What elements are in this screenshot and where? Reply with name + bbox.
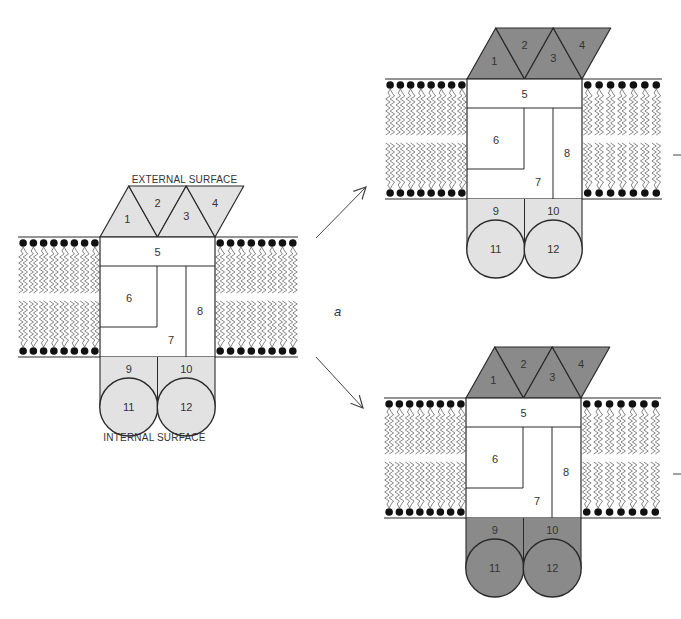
lipid-head-icon	[279, 239, 287, 247]
subunit-label: 9	[492, 524, 498, 536]
lipid-head-icon	[417, 81, 425, 89]
lipid-head-icon	[279, 347, 287, 355]
lipid-head-icon	[640, 400, 648, 408]
subunit-label: 10	[547, 205, 559, 217]
lipid-head-icon	[448, 189, 456, 197]
lipid-head-icon	[19, 239, 27, 247]
lipid-head-icon	[248, 347, 256, 355]
lipid-head-icon	[248, 239, 256, 247]
subunit-label: 7	[535, 176, 541, 188]
lipid-head-icon	[427, 189, 435, 197]
lipid-head-icon	[91, 239, 99, 247]
lipid-head-icon	[416, 508, 424, 516]
subunit-label: 4	[578, 358, 584, 370]
panel-label: a	[334, 304, 341, 319]
internal-surface-label: INTERNAL SURFACE	[103, 432, 205, 443]
lipid-head-icon	[71, 347, 79, 355]
lipid-head-icon	[60, 347, 68, 355]
lipid-head-icon	[457, 508, 465, 516]
lipid-head-icon	[426, 400, 434, 408]
lipid-head-icon	[385, 400, 393, 408]
lipid-head-icon	[438, 81, 446, 89]
lipid-head-icon	[237, 239, 245, 247]
transition-arrow-icon	[316, 187, 366, 238]
subunit-label: 7	[168, 334, 174, 346]
transition-arrow-icon	[316, 357, 363, 408]
lipid-head-icon	[407, 81, 415, 89]
lipid-head-icon	[629, 508, 637, 516]
subunit-label: 6	[126, 292, 132, 304]
subunit-label: 5	[521, 88, 527, 100]
protein-diagram-variant-top: 123456879101112	[385, 28, 662, 278]
lipid-head-icon	[652, 81, 660, 89]
lipid-head-icon	[584, 189, 592, 197]
subunit-label: 1	[490, 374, 496, 386]
lipid-head-icon	[618, 189, 626, 197]
subunit-label: 6	[492, 453, 498, 465]
lipid-head-icon	[447, 508, 455, 516]
subunit-label: 11	[490, 243, 501, 255]
subunit-label: 2	[521, 39, 527, 51]
lipid-head-icon	[640, 508, 648, 516]
lipid-head-icon	[651, 400, 659, 408]
lipid-head-icon	[397, 189, 405, 197]
lipid-head-icon	[216, 239, 224, 247]
lipid-head-icon	[30, 347, 38, 355]
protein-diagram-variant-bottom: 123456879101112	[384, 347, 661, 597]
protein-diagram-original: 123456879101112EXTERNAL SURFACEINTERNAL …	[18, 174, 298, 443]
lipid-head-icon	[583, 508, 591, 516]
subunit-label: 8	[563, 466, 569, 478]
lipid-head-icon	[40, 239, 48, 247]
lipid-head-icon	[629, 400, 637, 408]
subunit-label: 8	[197, 305, 203, 317]
lipid-head-icon	[594, 400, 602, 408]
lipid-head-icon	[407, 189, 415, 197]
lipid-head-icon	[396, 400, 404, 408]
lipid-head-icon	[426, 508, 434, 516]
lipid-head-icon	[385, 508, 393, 516]
lipid-head-icon	[651, 508, 659, 516]
lipid-head-icon	[595, 81, 603, 89]
lipid-head-icon	[437, 508, 445, 516]
lipid-head-icon	[594, 508, 602, 516]
lipid-head-icon	[81, 347, 89, 355]
membrane-protein-figure: 123456879101112EXTERNAL SURFACEINTERNAL …	[0, 0, 681, 619]
subunit-label: 3	[183, 210, 189, 222]
lipid-head-icon	[268, 347, 276, 355]
lipid-head-icon	[416, 400, 424, 408]
subunit-label: 3	[550, 52, 556, 64]
lipid-head-icon	[448, 81, 456, 89]
lipid-head-icon	[216, 347, 224, 355]
lipid-head-icon	[427, 81, 435, 89]
lipid-head-icon	[396, 508, 404, 516]
subunit-label: 5	[520, 407, 526, 419]
external-surface-label: EXTERNAL SURFACE	[132, 174, 238, 185]
subunit-label: 11	[489, 562, 500, 574]
subunit-label: 9	[126, 363, 132, 375]
subunit-label: 1	[491, 55, 497, 67]
lipid-head-icon	[438, 189, 446, 197]
lipid-head-icon	[630, 81, 638, 89]
lipid-head-icon	[406, 508, 414, 516]
subunit-label: 7	[534, 495, 540, 507]
subunit-label: 2	[520, 358, 526, 370]
subunit-label: 11	[123, 401, 134, 413]
lipid-head-icon	[71, 239, 79, 247]
lipid-head-icon	[584, 81, 592, 89]
lipid-head-icon	[447, 400, 455, 408]
lipid-head-icon	[406, 400, 414, 408]
lipid-head-icon	[607, 81, 615, 89]
subunit-label: 10	[546, 524, 558, 536]
lipid-head-icon	[606, 400, 614, 408]
lipid-head-icon	[458, 189, 466, 197]
lipid-head-icon	[227, 347, 235, 355]
lipid-head-icon	[227, 239, 235, 247]
lipid-head-icon	[237, 347, 245, 355]
lipid-head-icon	[630, 189, 638, 197]
lipid-head-icon	[50, 347, 58, 355]
lipid-head-icon	[641, 189, 649, 197]
lipid-head-icon	[458, 81, 466, 89]
lipid-head-icon	[618, 81, 626, 89]
lipid-head-icon	[258, 347, 266, 355]
subunit-label: 2	[154, 197, 160, 209]
